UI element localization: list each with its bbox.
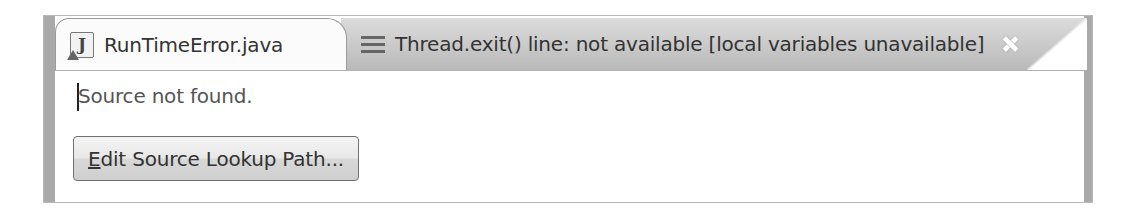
- editor-frame: Thread.exit() line: not available [local…: [43, 15, 1093, 203]
- java-file-icon: J: [70, 32, 94, 58]
- tab-label: RunTimeError.java: [104, 33, 283, 57]
- stack-frame-icon: [361, 36, 385, 53]
- close-tab-icon[interactable]: [1000, 34, 1020, 54]
- tab-thread-exit[interactable]: Thread.exit() line: not available [local…: [341, 18, 1086, 70]
- button-mnemonic: E: [88, 147, 100, 171]
- button-label: dit Source Lookup Path...: [100, 147, 343, 171]
- tab-runtimeerror-java[interactable]: J RunTimeError.java: [55, 18, 347, 70]
- editor-left-border: [44, 16, 55, 202]
- edit-source-lookup-path-button[interactable]: Edit Source Lookup Path...: [73, 136, 359, 181]
- source-not-found-message: Source not found.: [78, 84, 252, 108]
- editor-content: Source not found. Edit Source Lookup Pat…: [55, 71, 1084, 202]
- editor-tab-strip: Thread.exit() line: not available [local…: [55, 18, 1084, 70]
- tab-label: Thread.exit() line: not available [local…: [395, 32, 984, 56]
